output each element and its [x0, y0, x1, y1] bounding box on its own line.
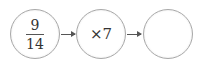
arrow-right-icon [61, 34, 75, 35]
fraction-bar [26, 34, 44, 35]
numerator: 9 [31, 18, 40, 32]
denominator: 14 [26, 37, 44, 51]
start-node: 9 14 [10, 9, 60, 59]
operation-label: ×7 [90, 25, 112, 43]
operation-node: ×7 [76, 9, 126, 59]
arrow-right-icon [127, 34, 141, 35]
fraction: 9 14 [26, 18, 44, 51]
result-node [143, 9, 193, 59]
